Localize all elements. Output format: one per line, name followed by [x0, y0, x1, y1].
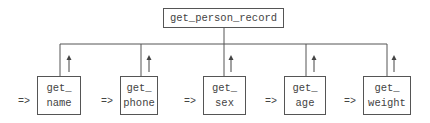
child-node-age: get_ age [284, 76, 326, 115]
child-node-line1: get_ [292, 81, 317, 96]
child-prefix: => [344, 96, 356, 107]
root-node-label: get_person_record [170, 11, 277, 26]
child-prefix: => [184, 96, 196, 107]
return-arrow-icon [312, 55, 317, 72]
child-node-line1: get_ [46, 81, 71, 96]
return-arrow-icon [392, 55, 397, 72]
child-prefix: => [18, 96, 30, 107]
child-node-line2: sex [215, 96, 234, 111]
call-hierarchy-diagram: get_person_record get_ name => get_ phon… [0, 0, 430, 123]
child-node-line1: get_ [374, 81, 399, 96]
return-arrow-icon [229, 55, 234, 72]
child-node-name: get_ name [37, 76, 81, 115]
child-prefix: => [265, 96, 277, 107]
child-node-line2: age [296, 96, 315, 111]
child-prefix: => [101, 96, 113, 107]
child-node-line1: get_ [212, 81, 237, 96]
root-node: get_person_record [163, 8, 284, 28]
child-node-line2: phone [123, 96, 155, 111]
child-node-weight: get_ weight [363, 76, 411, 115]
child-node-line2: weight [368, 96, 406, 111]
child-node-line2: name [46, 96, 71, 111]
child-node-phone: get_ phone [120, 76, 158, 115]
child-node-line1: get_ [126, 81, 151, 96]
child-node-sex: get_ sex [203, 76, 246, 115]
return-arrow-icon [147, 55, 152, 72]
return-arrow-icon [67, 55, 72, 72]
